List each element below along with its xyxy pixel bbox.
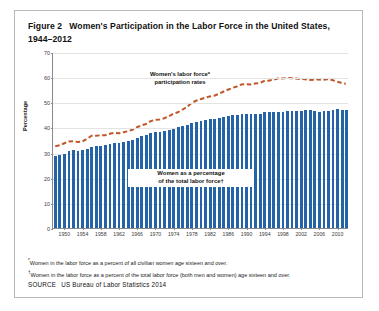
bar [300, 111, 303, 228]
x-axis-tick-mark [283, 228, 284, 230]
source-text: US Bureau of Labor Statistics 2014 [61, 281, 166, 288]
bar [304, 110, 307, 228]
bar [259, 114, 262, 228]
y-axis-tick-label: 40 [44, 125, 50, 131]
figure-container: Figure 2Women's Participation in the Lab… [14, 10, 363, 298]
y-axis-tick-mark [51, 229, 53, 230]
bar [68, 151, 71, 228]
bar [282, 112, 285, 228]
x-axis-tick-mark [247, 228, 248, 230]
bar [72, 150, 75, 228]
x-axis-tick-label: 1962 [113, 231, 125, 237]
footnote-2: †Women in the labor force as a percent o… [28, 268, 353, 280]
x-axis-tick-label: 1982 [204, 231, 216, 237]
figure-title-text: Women's Participation in the Labor Force… [28, 21, 330, 44]
x-axis-tick-mark [137, 228, 138, 230]
line-annotation-line-2: participation rates [124, 79, 236, 87]
footnotes: *Women in the labor force as a percent o… [28, 256, 353, 280]
y-axis-tick-label: 0 [47, 226, 50, 232]
bar [77, 151, 80, 228]
bar [95, 146, 98, 228]
line-annotation-line-1: Women's labor force* [124, 71, 236, 79]
bar [122, 142, 125, 228]
y-axis-label: Percentage [22, 101, 28, 131]
y-axis-tick-label: 20 [44, 176, 50, 182]
gridline [53, 53, 348, 54]
figure-number: Figure 2 [28, 21, 62, 31]
bar [318, 112, 321, 228]
x-axis-tick-label: 1994 [259, 231, 271, 237]
x-axis-tick-mark [319, 228, 320, 230]
footnote-1-text: Women in the labor force as a percent of… [30, 260, 227, 266]
source-line: SOURCEUS Bureau of Labor Statistics 2014 [28, 281, 166, 288]
y-axis-tick-mark [51, 128, 53, 129]
bar [113, 143, 116, 228]
x-axis-tick-label: 1970 [150, 231, 162, 237]
x-axis-tick-label: 1990 [241, 231, 253, 237]
bar-series-annotation: Women as a percentage of the total labor… [128, 169, 254, 187]
x-axis-tick-label: 1966 [131, 231, 143, 237]
figure-title: Figure 2Women's Participation in the Lab… [28, 20, 348, 46]
x-axis-tick-mark [210, 228, 211, 230]
bar [99, 146, 102, 228]
y-axis-tick-label: 30 [44, 151, 50, 157]
bar [345, 110, 348, 228]
x-axis-tick-label: 2002 [295, 231, 307, 237]
bar [272, 112, 275, 228]
y-axis-tick-label: 10 [44, 201, 50, 207]
x-axis-tick-label: 2010 [332, 231, 344, 237]
y-axis-tick-label: 70 [44, 50, 50, 56]
x-axis-tick-label: 1986 [223, 231, 235, 237]
x-axis-tick-label: 1950 [59, 231, 71, 237]
x-axis-tick-mark [265, 228, 266, 230]
bar [277, 112, 280, 228]
gridline [53, 103, 348, 104]
bar-annotation-line-1: Women as a percentage [130, 170, 252, 178]
x-axis-tick-mark [155, 228, 156, 230]
bar [291, 111, 294, 228]
x-axis-tick-label: 1958 [95, 231, 107, 237]
bar [118, 143, 121, 228]
x-axis-tick-label: 1978 [186, 231, 198, 237]
chart-area: Percentage 01020304050607019501954195819… [28, 53, 350, 250]
x-axis-tick-label: 1998 [277, 231, 289, 237]
x-axis-tick-mark [338, 228, 339, 230]
bar [109, 144, 112, 228]
footnote-2-text: Women in the labor force as a percent of… [31, 272, 291, 278]
bar [341, 110, 344, 228]
x-axis-tick-mark [174, 228, 175, 230]
footnote-1: *Women in the labor force as a percent o… [28, 256, 353, 268]
bar [254, 114, 257, 228]
bar [90, 147, 93, 228]
bar [327, 111, 330, 228]
x-axis-tick-label: 2006 [314, 231, 326, 237]
x-axis-tick-mark [301, 228, 302, 230]
bar [313, 111, 316, 228]
y-axis-tick-mark [51, 53, 53, 54]
bar [263, 112, 266, 228]
bar [268, 112, 271, 228]
x-axis-tick-mark [119, 228, 120, 230]
bar [309, 110, 312, 228]
bar [54, 156, 57, 228]
bar [104, 145, 107, 228]
y-axis-tick-label: 50 [44, 100, 50, 106]
y-axis-tick-mark [51, 204, 53, 205]
y-axis-tick-mark [51, 103, 53, 104]
bar [332, 110, 335, 228]
x-axis-tick-label: 1974 [168, 231, 180, 237]
source-label: SOURCE [28, 281, 56, 288]
x-axis-tick-mark [64, 228, 65, 230]
x-axis-tick-mark [228, 228, 229, 230]
x-axis-tick-label: 1954 [77, 231, 89, 237]
x-axis-tick-mark [192, 228, 193, 230]
bar [81, 150, 84, 228]
bar-annotation-line-2: of the total labor force† [130, 178, 252, 186]
line-series-annotation: Women's labor force* participation rates [124, 71, 236, 86]
x-axis-tick-mark [83, 228, 84, 230]
bar [63, 154, 66, 228]
bar [286, 111, 289, 228]
bar [58, 155, 61, 228]
y-axis-tick-mark [51, 154, 53, 155]
y-axis-tick-mark [51, 78, 53, 79]
